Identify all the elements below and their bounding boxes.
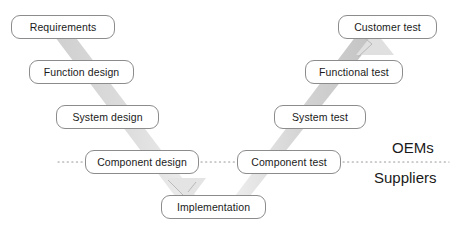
node-requirements[interactable]: Requirements bbox=[11, 15, 115, 39]
node-system-design[interactable]: System design bbox=[56, 105, 159, 129]
label-oems: OEMs bbox=[392, 140, 434, 155]
node-label: System design bbox=[72, 112, 142, 123]
node-label: Implementation bbox=[177, 202, 250, 213]
node-functional-test[interactable]: Functional test bbox=[305, 60, 403, 84]
node-system-test[interactable]: System test bbox=[274, 105, 366, 129]
node-label: Customer test bbox=[354, 22, 421, 33]
node-component-design[interactable]: Component design bbox=[85, 150, 199, 174]
node-label: Functional test bbox=[319, 67, 389, 78]
node-component-test[interactable]: Component test bbox=[237, 150, 341, 174]
node-label: Component design bbox=[97, 157, 187, 168]
label-suppliers: Suppliers bbox=[374, 170, 437, 185]
node-label: Function design bbox=[44, 67, 120, 78]
node-label: Requirements bbox=[30, 22, 97, 33]
v-model-diagram: Requirements Function design System desi… bbox=[0, 0, 451, 231]
node-label: Component test bbox=[251, 157, 327, 168]
node-customer-test[interactable]: Customer test bbox=[338, 15, 437, 39]
node-label: System test bbox=[292, 112, 348, 123]
node-function-design[interactable]: Function design bbox=[29, 60, 134, 84]
node-implementation[interactable]: Implementation bbox=[161, 195, 266, 219]
